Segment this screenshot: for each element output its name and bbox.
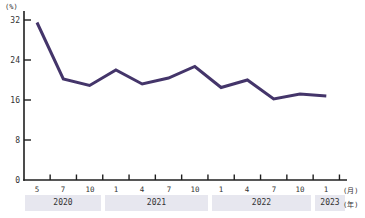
x-axis-ticks bbox=[50, 175, 339, 181]
year-band-2020: 2020 bbox=[25, 195, 101, 211]
x-axis-year-unit-label: (年) bbox=[343, 199, 358, 209]
x-tick-label-2020-10: 10 bbox=[82, 185, 98, 194]
x-tick-label-2022-1: 1 bbox=[213, 185, 229, 194]
year-band-2022: 2022 bbox=[212, 195, 311, 211]
x-tick-label-2021-10: 10 bbox=[187, 185, 203, 194]
x-tick-label-2022-10: 10 bbox=[292, 185, 308, 194]
year-band-2023: 2023 bbox=[315, 195, 345, 211]
x-tick-label-2020-5: 5 bbox=[29, 185, 45, 194]
year-band-label: 2022 bbox=[212, 195, 311, 211]
x-tick-label-2021-7: 7 bbox=[161, 185, 177, 194]
x-tick-label-2021-4: 4 bbox=[134, 185, 150, 194]
series-line bbox=[37, 23, 326, 100]
year-band-label: 2021 bbox=[105, 195, 208, 211]
x-tick-label-2020-7: 7 bbox=[55, 185, 71, 194]
telework-rate-line-chart: (%) 32 24 16 8 0 5 7 10 1 4 7 10 1 4 7 1… bbox=[0, 0, 365, 218]
year-band-label: 2020 bbox=[25, 195, 101, 211]
x-tick-label-2023-1: 1 bbox=[318, 185, 334, 194]
x-tick-label-2022-7: 7 bbox=[266, 185, 282, 194]
x-axis-month-unit-label: (月) bbox=[343, 185, 358, 195]
year-band-label: 2023 bbox=[315, 195, 345, 211]
x-tick-label-2022-4: 4 bbox=[239, 185, 255, 194]
y-axis-ticks bbox=[24, 20, 31, 140]
x-tick-label-2021-1: 1 bbox=[108, 185, 124, 194]
year-band-2021: 2021 bbox=[105, 195, 208, 211]
